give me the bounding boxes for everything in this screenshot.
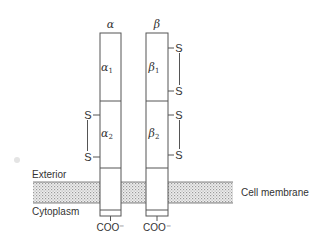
beta1-sulfur-bottom: S: [175, 85, 182, 97]
cytoplasm-label: Cytoplasm: [32, 206, 79, 217]
exterior-label: Exterior: [32, 169, 67, 180]
cell-membrane-label: Cell membrane: [241, 187, 309, 198]
beta2-sulfur-bottom: S: [175, 149, 182, 161]
receptor-diagram: α β α1 α2 β1 β2 S S S S S S Exterior Cyt…: [0, 0, 326, 245]
smudge-artifact: [14, 157, 20, 163]
beta-cterminus-label: COO⁻: [143, 222, 171, 233]
beta2-sulfur-top: S: [175, 109, 182, 121]
alpha-chain-label: α: [107, 18, 115, 31]
alpha2-sulfur-top: S: [84, 109, 91, 121]
beta-chain-label: β: [153, 18, 160, 31]
cell-membrane: [33, 182, 233, 203]
alpha-cterminus-label: COO⁻: [97, 222, 125, 233]
beta1-sulfur-top: S: [175, 42, 182, 54]
alpha2-sulfur-bottom: S: [84, 151, 91, 163]
